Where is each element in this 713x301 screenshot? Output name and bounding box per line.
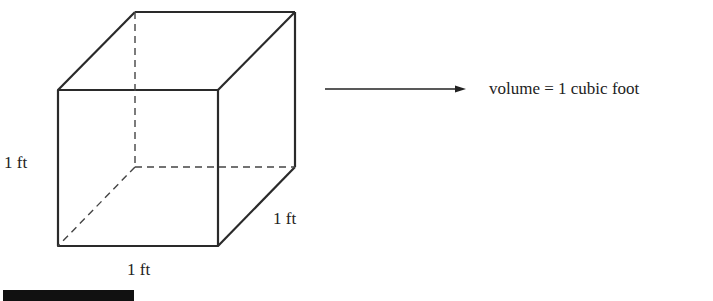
depth-label: 1 ft — [273, 210, 296, 227]
cropped-caption-bar — [3, 290, 134, 301]
volume-result: volume = 1 cubic foot — [489, 80, 639, 97]
cube-front-face — [58, 90, 218, 246]
height-label: 1 ft — [4, 154, 27, 171]
cube-diagram — [0, 0, 713, 301]
arrow-icon — [325, 86, 466, 93]
width-label: 1 ft — [127, 261, 150, 278]
